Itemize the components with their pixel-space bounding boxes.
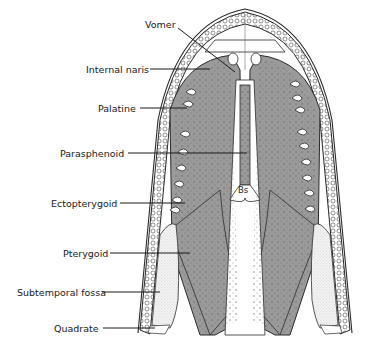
label-internal-naris: Internal naris [86, 64, 149, 75]
label-vomer: Vomer [145, 19, 176, 30]
label-palatine: Palatine [98, 103, 136, 114]
palate-diagram: Vomer Internal naris Palatine Paraspheno… [0, 0, 377, 351]
label-quadrate: Quadrate [54, 323, 99, 334]
label-ectopterygoid: Ectopterygoid [51, 198, 117, 209]
label-parasphenoid: Parasphenoid [60, 148, 124, 159]
label-subtemporal-fossa: Subtemporal fossa [17, 287, 106, 298]
skull-palate-drawing [0, 0, 377, 351]
label-basisphenoid: Bs [238, 185, 248, 195]
label-pterygoid: Pterygoid [63, 248, 108, 259]
